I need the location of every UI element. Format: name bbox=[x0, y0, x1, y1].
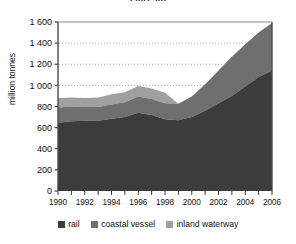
legend-swatch-inland-waterway bbox=[166, 221, 173, 228]
chart-legend: rail coastal vessel inland waterway bbox=[0, 219, 296, 229]
svg-text:0: 0 bbox=[47, 186, 52, 196]
x-axis-ticks bbox=[58, 191, 272, 195]
x-axis-band bbox=[58, 186, 272, 192]
legend-item-inland-waterway[interactable]: inland waterway bbox=[166, 219, 238, 229]
legend-swatch-rail bbox=[58, 221, 65, 228]
svg-text:1992: 1992 bbox=[76, 198, 95, 207]
svg-text:1 200: 1 200 bbox=[29, 59, 52, 69]
x-axis-labels: 199019921994199619982000200220042006 bbox=[49, 198, 282, 207]
legend-item-rail[interactable]: rail bbox=[58, 219, 80, 229]
svg-text:2002: 2002 bbox=[209, 198, 228, 207]
svg-text:1 600: 1 600 bbox=[29, 17, 52, 27]
chart-figure: 2007-08 million tonnes 02004006008001 00… bbox=[0, 0, 296, 244]
svg-text:1998: 1998 bbox=[156, 198, 175, 207]
svg-text:2000: 2000 bbox=[183, 198, 202, 207]
svg-text:2006: 2006 bbox=[263, 198, 282, 207]
legend-label-rail: rail bbox=[68, 219, 79, 229]
svg-text:600: 600 bbox=[37, 123, 52, 133]
y-axis-labels: 02004006008001 0001 2001 4001 600 bbox=[29, 17, 52, 196]
svg-text:1994: 1994 bbox=[102, 198, 121, 207]
legend-label-coastal-vessel: coastal vessel bbox=[101, 219, 155, 229]
legend-swatch-coastal-vessel bbox=[91, 221, 98, 228]
svg-text:800: 800 bbox=[37, 102, 52, 112]
legend-item-coastal-vessel[interactable]: coastal vessel bbox=[91, 219, 155, 229]
svg-text:1996: 1996 bbox=[129, 198, 148, 207]
svg-text:1990: 1990 bbox=[49, 198, 68, 207]
svg-text:1 000: 1 000 bbox=[29, 81, 52, 91]
legend-label-inland-waterway: inland waterway bbox=[177, 219, 239, 229]
stacked-area-chart: 02004006008001 0001 2001 4001 600 199019… bbox=[0, 0, 296, 244]
svg-text:400: 400 bbox=[37, 144, 52, 154]
svg-text:1 400: 1 400 bbox=[29, 38, 52, 48]
svg-text:2004: 2004 bbox=[236, 198, 255, 207]
svg-text:200: 200 bbox=[37, 165, 52, 175]
